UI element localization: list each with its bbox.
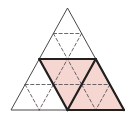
triangle-diagram	[0, 0, 133, 122]
figure-container	[0, 0, 133, 122]
